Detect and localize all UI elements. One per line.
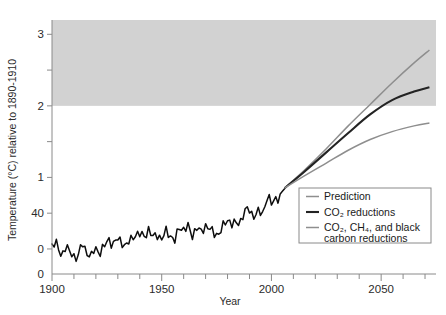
y-axis-title: Temperature (°C) relative to 1890-1910 [6,59,18,241]
x-tick-label: 2000 [259,283,285,295]
y-tick-label: 2 [38,100,44,112]
x-axis-ticks: 1900195020002050 [39,274,425,295]
x-axis-title: Year [219,295,241,307]
plot-background-band [52,20,436,106]
x-tick-label: 1950 [149,283,175,295]
y-tick-label: 1 [38,171,44,183]
y-tick-label: 40 [31,207,44,219]
y-origin-label: 0 [38,268,44,280]
chart-canvas: 0401230 1900195020002050 Temperature (°C… [0,0,446,315]
x-tick-label: 2050 [368,283,394,295]
legend-label-continued: carbon reductions [324,232,407,244]
y-tick-label: 3 [38,28,44,40]
y-axis-ticks: 0401230 [31,28,52,280]
projection-line [285,123,430,188]
legend-label: CO₂ reductions [324,206,395,218]
x-tick-label: 1900 [39,283,65,295]
temperature-projection-chart: 0401230 1900195020002050 Temperature (°C… [0,0,446,315]
legend-label: Prediction [324,190,371,202]
chart-legend: PredictionCO₂ reductionsCO₂, CH₄, and bl… [299,188,431,244]
historical-temperature-line [52,189,285,262]
y-tick-label: 0 [38,243,44,255]
